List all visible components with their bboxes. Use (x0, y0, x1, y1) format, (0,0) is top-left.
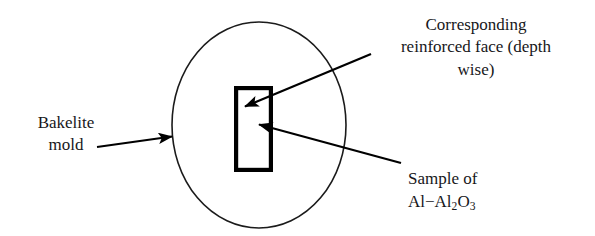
label-sample-title: Sample of (408, 169, 477, 188)
arrow-reinforced-face (245, 54, 371, 107)
figure-canvas: Bakelite mold Corresponding reinforced f… (0, 0, 595, 236)
label-sample-of: Sample of Al−Al2O3 (408, 146, 578, 236)
label-sample-formula: Al−Al2O3 (408, 191, 578, 214)
formula-prefix: Al−Al (408, 192, 452, 211)
formula-oxygen: O (457, 192, 469, 211)
label-reinforced-face: Corresponding reinforced face (depth wis… (378, 14, 574, 81)
formula-sub-3: 3 (470, 199, 476, 212)
sample-rectangle (236, 88, 271, 170)
arrow-sample (259, 125, 401, 164)
label-bakelite-mold: Bakelite mold (14, 112, 118, 157)
